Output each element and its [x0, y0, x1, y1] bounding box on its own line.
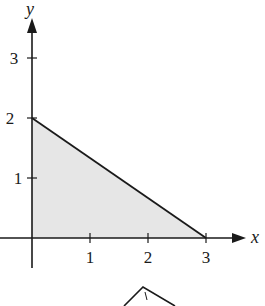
- x-tick-label-2: 2: [144, 248, 153, 267]
- x-axis-label: x: [250, 227, 259, 247]
- partial-figure-fragment: [124, 287, 175, 306]
- y-tick-label-2: 2: [6, 109, 15, 128]
- y-axis-arrow-icon: [27, 18, 37, 33]
- x-tick-label-3: 3: [202, 248, 211, 267]
- y-tick-label-3: 3: [10, 49, 19, 68]
- y-axis-label: y: [24, 0, 34, 19]
- x-axis-arrow-icon: [232, 233, 246, 243]
- y-tick-label-1: 1: [14, 169, 23, 188]
- x-tick-label-1: 1: [86, 248, 95, 267]
- chart-canvas: 1 2 3 1 2 3 x y: [0, 0, 265, 306]
